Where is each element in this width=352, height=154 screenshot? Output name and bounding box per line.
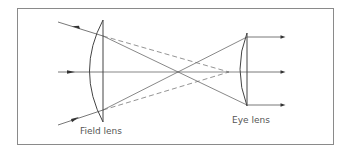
eye-lens-label: Eye lens bbox=[232, 115, 270, 125]
solid-rays bbox=[103, 36, 247, 110]
arrowhead-icon bbox=[67, 70, 75, 73]
solid-ray-up bbox=[103, 37, 247, 110]
incoming-arrowheads bbox=[67, 26, 80, 123]
eye-lens-curved-side bbox=[240, 33, 247, 106]
dashed-ray-top bbox=[103, 36, 229, 72]
eye-lens bbox=[240, 33, 247, 106]
incoming-rays bbox=[58, 22, 103, 125]
outgoing-rays bbox=[247, 37, 283, 105]
solid-ray-down bbox=[103, 36, 247, 105]
incoming-ray-bottom bbox=[58, 110, 103, 125]
diagram-frame bbox=[18, 9, 334, 145]
field-lens-eye-lens-diagram: Field lens Eye lens bbox=[0, 0, 352, 154]
field-lens-label: Field lens bbox=[80, 126, 122, 136]
arrowhead-icon bbox=[72, 26, 80, 29]
arrowhead-icon bbox=[71, 117, 79, 122]
dashed-rays bbox=[103, 36, 229, 110]
